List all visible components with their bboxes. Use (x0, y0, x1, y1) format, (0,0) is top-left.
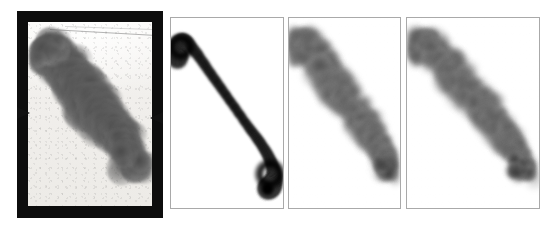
flow-element (374, 143, 392, 161)
panel-simulation-turbulent-a (288, 17, 401, 209)
nozzle-wedge-left-icon (17, 107, 30, 119)
flow-element (502, 142, 522, 162)
simulation-laminar-canvas (171, 18, 283, 208)
simulation-turbulent-b-canvas (407, 18, 539, 208)
figure-root (0, 0, 557, 227)
nozzle-wedge-right-icon (150, 112, 163, 124)
flow-element (110, 140, 138, 168)
photo-plate (28, 22, 152, 206)
flow-element (253, 157, 283, 191)
flow-element (297, 26, 319, 48)
panel-simulation-laminar (170, 17, 284, 209)
simulation-turbulent-a-canvas (289, 18, 400, 208)
panel-simulation-turbulent-b (406, 17, 540, 209)
panel-experiment-photograph (17, 11, 163, 218)
flow-element (523, 163, 539, 181)
flow-element (408, 48, 424, 64)
flow-element (51, 29, 71, 49)
